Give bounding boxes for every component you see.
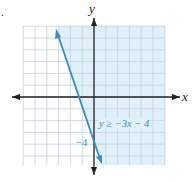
y-axis-up-arrow-icon [91,18,97,26]
inequality-label: y ≥ −3x − 4 [99,118,149,129]
y-intercept-label: −4 [76,137,87,148]
inequality-graph [0,0,195,182]
x-axis-right-arrow-icon [172,94,180,100]
y-axis-down-arrow-icon [91,167,97,175]
x-axis-label: x [182,89,188,105]
x-axis-left-arrow-icon [12,94,20,100]
y-axis-label: y [89,1,95,17]
